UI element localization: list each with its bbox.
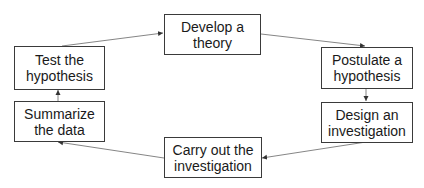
node-label-line: investigation (328, 123, 406, 139)
arrow-develop-to-postulate (261, 34, 365, 46)
node-postulate-hypothesis: Postulate ahypothesis (321, 47, 413, 89)
node-label-line: hypothesis (26, 68, 93, 84)
node-label-line: Carry out the (173, 142, 254, 158)
node-summarize-data: Summarizethe data (14, 101, 105, 142)
node-label-line: investigation (174, 158, 252, 174)
node-label-line: Design an (335, 107, 398, 123)
node-label-line: theory (193, 35, 232, 51)
node-test-hypothesis: Test thehypothesis (14, 46, 105, 90)
node-label-line: Postulate a (332, 52, 402, 68)
node-design-investigation: Design aninvestigation (321, 102, 413, 143)
node-label-line: hypothesis (334, 68, 401, 84)
node-label-line: the data (34, 122, 85, 138)
node-carry-out-investigation: Carry out theinvestigation (164, 137, 262, 178)
node-label-line: Summarize (24, 106, 95, 122)
arrow-test-to-develop (62, 33, 163, 46)
arrow-carry-to-summarize (58, 142, 164, 158)
node-label-line: Develop a (181, 19, 244, 35)
arrow-design-to-carry (262, 142, 366, 158)
node-develop-theory: Develop atheory (164, 14, 261, 55)
node-label-line: Test the (35, 52, 84, 68)
